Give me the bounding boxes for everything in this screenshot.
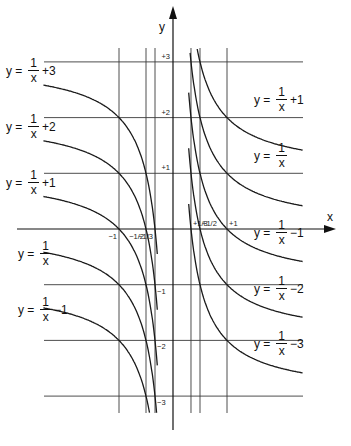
equation-offset: −3 xyxy=(290,337,304,351)
y-tick-label: −1 xyxy=(157,287,166,296)
equation-prefix: y = xyxy=(254,93,270,107)
equation-offset: +2 xyxy=(42,120,56,134)
fraction: 1x xyxy=(28,113,39,140)
y-tick-label: +1 xyxy=(161,163,170,172)
equation-prefix: y = xyxy=(254,337,270,351)
equation-label: y =1x+1 xyxy=(6,169,56,196)
hyperbola-left-branch xyxy=(43,252,156,413)
fraction: 1x xyxy=(276,219,287,246)
equation-offset: −2 xyxy=(290,282,304,296)
x-tick-label: −1/3 xyxy=(138,232,153,241)
equation-label: y =1x xyxy=(254,142,290,169)
equation-label: y =1x+1 xyxy=(254,86,304,113)
equation-prefix: y = xyxy=(254,149,270,163)
equation-label: y =1x xyxy=(18,240,54,267)
fraction: 1x xyxy=(28,57,39,84)
fraction: 1x xyxy=(276,86,287,113)
fraction: 1x xyxy=(40,296,51,323)
y-axis-arrow-icon xyxy=(169,6,177,19)
equation-prefix: y = xyxy=(6,64,22,78)
x-tick-label: +1/2 xyxy=(202,219,217,228)
equation-label: y =1x−2 xyxy=(254,275,304,302)
equation-label: y =1x−1 xyxy=(254,219,304,246)
axes: x y xyxy=(17,6,336,430)
x-axis-arrow-icon xyxy=(324,225,336,233)
equation-prefix: y = xyxy=(18,247,34,261)
y-axis-label: y xyxy=(159,20,165,34)
equation-label: y =1x+2 xyxy=(6,113,56,140)
equation-offset: −1 xyxy=(54,303,68,317)
x-tick-label: +1 xyxy=(229,219,238,228)
equation-prefix: y = xyxy=(6,120,22,134)
equation-offset: +1 xyxy=(290,93,304,107)
x-axis-label: x xyxy=(327,210,333,224)
equation-prefix: y = xyxy=(18,303,34,317)
y-tick-label: +3 xyxy=(161,52,170,61)
fraction: 1x xyxy=(276,275,287,302)
equation-label: y =1x−3 xyxy=(254,330,304,357)
equation-offset: −1 xyxy=(290,226,304,240)
hyperbola-right-branch xyxy=(190,53,303,206)
equation-offset: +1 xyxy=(42,176,56,190)
y-tick-label: +2 xyxy=(161,108,170,117)
equation-prefix: y = xyxy=(254,226,270,240)
y-tick-label: −3 xyxy=(157,398,166,407)
equation-prefix: y = xyxy=(6,176,22,190)
fraction: 1x xyxy=(276,330,287,357)
equation-label: y =1x+3 xyxy=(6,57,56,84)
fraction: 1x xyxy=(40,240,51,267)
hyperbola-left-branch xyxy=(43,308,149,413)
fraction: 1x xyxy=(276,142,287,169)
equation-label: y =1x−1 xyxy=(18,296,68,323)
x-tick-label: −1 xyxy=(108,232,117,241)
equation-prefix: y = xyxy=(254,282,270,296)
y-tick-label: −2 xyxy=(157,342,166,351)
fraction: 1x xyxy=(28,169,39,196)
equation-offset: +3 xyxy=(42,64,56,78)
